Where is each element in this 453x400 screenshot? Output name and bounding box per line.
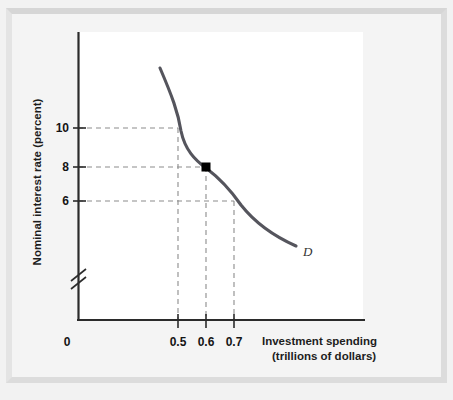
origin-label-zero: 0 <box>64 335 71 349</box>
x-axis-title-line2: (trillions of dollars) <box>272 350 376 362</box>
x-tick-label-06: 0.6 <box>198 335 215 349</box>
x-tick-label-07: 0.7 <box>226 335 243 349</box>
y-tick-label-8: 8 <box>62 160 69 174</box>
y-axis-title: Nominal interest rate (percent) <box>31 98 43 265</box>
y-tick-label-6: 6 <box>62 194 69 208</box>
curve-label-d: D <box>302 244 313 259</box>
equilibrium-point-marker <box>202 163 211 172</box>
y-tick-label-10: 10 <box>56 121 70 135</box>
chart-canvas: D 10 8 6 0.5 0.6 0.7 0 I <box>0 0 453 400</box>
plot-area-background <box>78 32 363 321</box>
figure-root: D 10 8 6 0.5 0.6 0.7 0 I <box>0 0 453 400</box>
x-tick-label-05: 0.5 <box>170 335 187 349</box>
x-axis-title-line1: Investment spending <box>262 335 377 347</box>
